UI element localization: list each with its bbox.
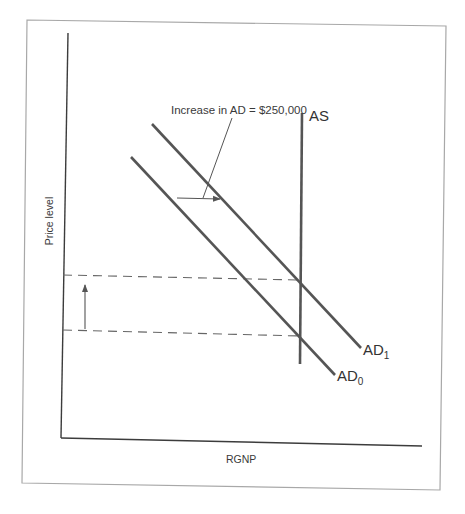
y-axis-label: Price level — [43, 197, 55, 245]
page-frame — [22, 20, 446, 490]
price-level-p1-dashed — [63, 275, 300, 280]
x-axis-label: RGNP — [226, 453, 256, 465]
annotation-leader-line — [203, 118, 232, 198]
ad0-label-main: AD — [337, 367, 358, 384]
x-axis — [61, 438, 422, 446]
annotation-label: Increase in AD = $250,000 — [171, 104, 307, 116]
as-curve — [300, 113, 302, 364]
ad0-label: AD0 — [337, 367, 364, 387]
ad1-label: AD1 — [363, 341, 390, 361]
ad1-label-sub: 1 — [384, 350, 390, 361]
ad0-curve — [131, 157, 335, 375]
ad-as-diagram: Increase in AD = $250,000 AS AD1 AD0 RGN… — [0, 0, 465, 514]
ad1-curve — [152, 124, 361, 348]
ad1-label-main: AD — [363, 341, 384, 358]
as-label: AS — [309, 107, 329, 124]
y-axis — [61, 33, 68, 438]
ad-shift-arrow — [177, 198, 220, 199]
price-level-p0-dashed — [63, 330, 300, 336]
ad0-label-sub: 0 — [358, 376, 364, 387]
